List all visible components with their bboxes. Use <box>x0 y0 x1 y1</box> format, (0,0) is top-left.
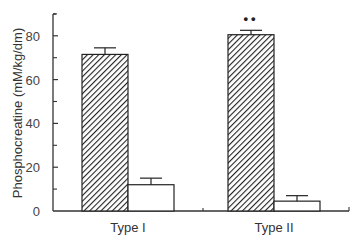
y-tick-label: 20 <box>26 160 40 175</box>
category-label: Type I <box>110 220 145 235</box>
bar-hatched <box>82 54 128 211</box>
significance-marker: •• <box>243 11 258 26</box>
y-tick-label: 40 <box>26 116 40 131</box>
category-label: Type II <box>254 220 293 235</box>
bar-chart: Phosphocreatine (mM/kg/dm) 020406080 •• … <box>0 0 355 241</box>
bars: •• <box>82 11 320 211</box>
bar-open <box>128 185 174 211</box>
category-labels: Type IType II <box>110 220 293 235</box>
bar-hatched <box>228 35 274 211</box>
y-tick-label: 80 <box>26 29 40 44</box>
y-tick-label: 0 <box>33 204 40 219</box>
y-tick-label: 60 <box>26 73 40 88</box>
y-axis-title: Phosphocreatine (mM/kg/dm) <box>10 28 25 199</box>
bar-open <box>274 201 320 211</box>
y-axis: 020406080 <box>26 14 58 219</box>
